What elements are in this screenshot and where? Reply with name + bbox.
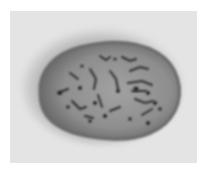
micrograph [10,11,197,163]
cell-illustration [10,11,197,163]
